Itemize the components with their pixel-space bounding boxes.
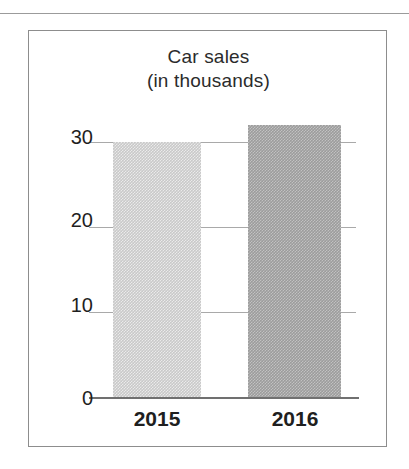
x-axis-tick-label-2016: 2016 — [241, 406, 349, 432]
bar-2015 — [113, 142, 201, 397]
plot-area: 30 20 10 0 2015 2016 — [29, 31, 388, 448]
x-axis-tick-label-2015: 2015 — [105, 406, 209, 432]
y-axis-tick-label-20: 20 — [41, 210, 93, 230]
y-axis-tick-label-10: 10 — [41, 295, 93, 315]
x-axis-line — [89, 397, 359, 399]
page-top-divider — [0, 13, 409, 14]
y-axis-tick-label-30: 30 — [41, 127, 93, 147]
chart-panel: Car sales (in thousands) 30 20 10 0 2015… — [28, 30, 387, 447]
y-axis-tick-label-0: 0 — [41, 388, 93, 408]
bar-2016 — [248, 125, 341, 397]
